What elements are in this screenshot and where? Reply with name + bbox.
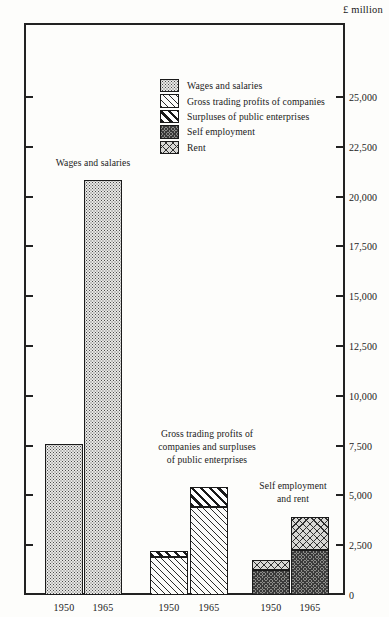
y-tick-left (24, 544, 33, 546)
y-tick-left (24, 345, 33, 347)
bar (84, 180, 122, 595)
y-tick-right (336, 345, 345, 347)
y-tick-label: 7,500 (349, 440, 372, 451)
legend-item: Gross trading profits of companies (160, 93, 325, 108)
bar-segment (252, 560, 290, 570)
chart-root: £ million 25,00022,50020,00017,50015,000… (0, 0, 389, 617)
x-axis-label: 1965 (300, 602, 321, 613)
group-annotation: Wages and salaries (38, 156, 148, 169)
bar-segment (291, 517, 329, 550)
legend-item: Surpluses of public enterprises (160, 109, 325, 124)
y-tick-right (336, 295, 345, 297)
axis-unit-label: £ million (343, 4, 383, 15)
bar-segment (252, 570, 290, 595)
y-tick-left (24, 146, 33, 148)
legend-swatch-icon (160, 125, 179, 138)
legend-item: Wages and salaries (160, 78, 325, 93)
bar-segment (84, 180, 122, 595)
x-axis-label: 1965 (199, 602, 220, 613)
y-tick-label: 15,000 (349, 291, 377, 302)
legend-swatch-icon (160, 141, 179, 154)
y-tick-right (336, 445, 345, 447)
y-tick-left (24, 295, 33, 297)
bar-segment (190, 487, 228, 507)
y-tick-label: 17,500 (349, 241, 377, 252)
legend-label: Rent (187, 142, 206, 153)
legend-item: Rent (160, 140, 325, 155)
bar-segment (150, 557, 188, 595)
legend-label: Surpluses of public enterprises (187, 111, 309, 122)
y-tick-right (336, 395, 345, 397)
y-tick-label: 0 (349, 590, 354, 601)
group-annotation: Self employment and rent (238, 479, 348, 505)
y-tick-left (24, 395, 33, 397)
y-tick-left (24, 245, 33, 247)
legend-label: Self employment (187, 126, 255, 137)
y-tick-left (24, 494, 33, 496)
y-tick-right (336, 96, 345, 98)
y-tick-left (24, 96, 33, 98)
bar (45, 444, 83, 595)
legend-label: Gross trading profits of companies (187, 96, 325, 107)
bar-segment (291, 550, 329, 595)
legend-swatch-icon (160, 110, 179, 123)
y-tick-left (24, 196, 33, 198)
y-tick-label: 10,000 (349, 390, 377, 401)
bar (190, 487, 228, 595)
bar (150, 551, 188, 595)
y-tick-label: 2,500 (349, 540, 372, 551)
y-tick-label: 12,500 (349, 341, 377, 352)
bar-segment (150, 551, 188, 557)
bar-segment (190, 507, 228, 595)
y-tick-right (336, 146, 345, 148)
y-tick-right (336, 544, 345, 546)
legend-swatch-icon (160, 79, 179, 92)
x-axis-label: 1950 (159, 602, 180, 613)
y-tick-left (24, 445, 33, 447)
y-tick-right (336, 245, 345, 247)
legend-item: Self employment (160, 124, 325, 139)
bar (252, 560, 290, 595)
bar (291, 517, 329, 595)
bar-segment (45, 444, 83, 595)
y-tick-label: 25,000 (349, 92, 377, 103)
legend-label: Wages and salaries (187, 80, 262, 91)
y-tick-label: 5,000 (349, 490, 372, 501)
x-axis-label: 1950 (54, 602, 75, 613)
y-tick-label: 22,500 (349, 141, 377, 152)
y-tick-right (336, 196, 345, 198)
legend: Wages and salariesGross trading profits … (160, 78, 325, 155)
x-axis-label: 1965 (93, 602, 114, 613)
right-axis-line (343, 23, 345, 595)
x-axis-label: 1950 (261, 602, 282, 613)
group-annotation: Gross trading profits of companies and s… (132, 427, 282, 466)
y-tick-label: 20,000 (349, 191, 377, 202)
legend-swatch-icon (160, 94, 179, 107)
